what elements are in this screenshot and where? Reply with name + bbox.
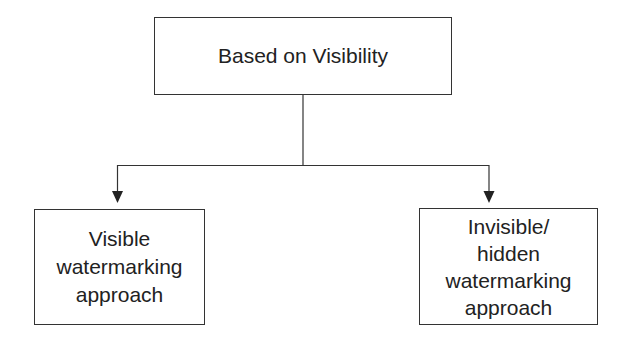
right-arrowhead-icon [484, 191, 495, 203]
root-node-label: Based on Visibility [218, 44, 388, 68]
visible-watermarking-label: Visible watermarking approach [56, 225, 182, 309]
left-arrowhead-icon [112, 191, 123, 203]
invisible-watermarking-label: Invisible/ hidden watermarking approach [445, 213, 571, 321]
invisible-watermarking-node: Invisible/ hidden watermarking approach [419, 208, 598, 325]
visible-watermarking-node: Visible watermarking approach [34, 209, 205, 325]
root-node: Based on Visibility [154, 17, 452, 95]
